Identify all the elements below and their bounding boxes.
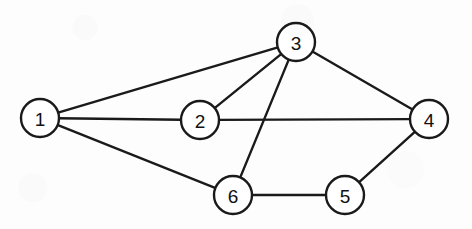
graph-node-2: 2 [181,101,219,139]
node-label-6: 6 [228,186,239,207]
graph-svg: 123456 [0,0,472,229]
edge-layer [57,47,416,195]
graph-edge-1-3 [57,47,278,113]
graph-node-3: 3 [277,23,315,61]
graph-edge-2-4 [218,119,411,120]
graph-node-1: 1 [21,99,59,137]
graph-edge-1-2 [58,118,182,120]
graph-edge-3-4 [312,51,414,110]
node-label-4: 4 [424,110,435,131]
graph-edge-4-5 [358,131,415,183]
node-label-2: 2 [195,111,206,132]
graph-node-5: 5 [326,176,364,214]
node-label-1: 1 [35,109,46,130]
graph-node-4: 4 [410,100,448,138]
node-label-5: 5 [340,186,351,207]
graph-node-6: 6 [214,176,252,214]
graph-diagram-canvas: 123456 [0,0,472,229]
node-label-3: 3 [291,33,302,54]
